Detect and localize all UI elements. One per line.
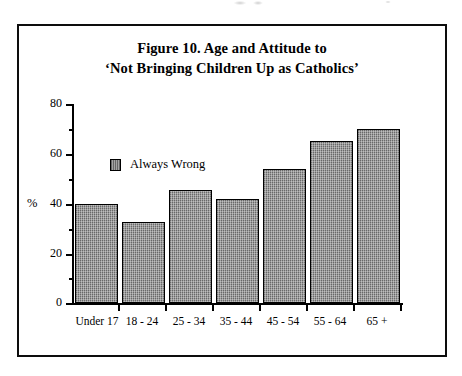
y-tick-0: 0 [66, 303, 73, 305]
x-label-45-54: 45 - 54 [259, 315, 307, 327]
y-tick-60: 60 [66, 154, 73, 156]
x-label-65-plus: 65 + [353, 315, 401, 327]
x-tick-5 [306, 305, 308, 311]
x-tick-4 [259, 305, 261, 311]
y-tick-minor-10 [69, 278, 73, 280]
x-label-35-44: 35 - 44 [212, 315, 260, 327]
x-label-under-17: Under 17 [71, 315, 123, 327]
bar-18-24[interactable] [122, 222, 165, 303]
bar-55-64[interactable] [310, 141, 353, 303]
figure-frame: Figure 10. Age and Attitude to ‘Not Brin… [17, 24, 447, 357]
y-tick-label-40: 40 [50, 196, 62, 211]
x-tick-3 [212, 305, 214, 311]
y-tick-label-80: 80 [50, 96, 62, 111]
chart-legend: Always Wrong [110, 157, 205, 172]
y-tick-80: 80 [66, 104, 73, 106]
y-tick-label-60: 60 [50, 146, 62, 161]
y-tick-20: 20 [66, 254, 73, 256]
y-tick-label-0: 0 [56, 295, 62, 310]
legend-swatch-always-wrong [110, 159, 121, 171]
bar-45-54[interactable] [263, 169, 306, 303]
y-tick-minor-70 [69, 129, 73, 131]
y-tick-label-20: 20 [50, 246, 62, 261]
bar-chart-plot-area: % 80 60 40 20 0 Always Wrong [19, 26, 445, 355]
y-tick-40: 40 [66, 204, 73, 206]
legend-label-always-wrong: Always Wrong [130, 157, 205, 172]
bar-25-34[interactable] [169, 190, 212, 303]
y-tick-minor-30 [69, 229, 73, 231]
x-tick-7 [400, 305, 402, 311]
x-label-18-24: 18 - 24 [118, 315, 166, 327]
x-tick-2 [165, 305, 167, 311]
y-tick-minor-50 [69, 179, 73, 181]
bar-35-44[interactable] [216, 199, 259, 303]
y-axis-title: % [27, 196, 37, 211]
scan-artifact [228, 0, 408, 7]
bar-under-17[interactable] [75, 204, 118, 303]
x-tick-1 [118, 305, 120, 311]
x-tick-6 [353, 305, 355, 311]
bar-65-plus[interactable] [357, 129, 400, 303]
x-label-55-64: 55 - 64 [306, 315, 354, 327]
x-label-25-34: 25 - 34 [165, 315, 213, 327]
